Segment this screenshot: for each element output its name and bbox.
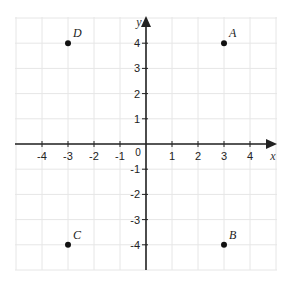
y-axis-label: y: [135, 15, 142, 29]
svg-text:-2: -2: [89, 150, 99, 162]
plotted-points: ABCD: [65, 26, 237, 248]
svg-text:3: 3: [134, 62, 140, 74]
point-marker: [221, 242, 227, 248]
svg-text:4: 4: [134, 37, 140, 49]
svg-text:-3: -3: [130, 214, 140, 226]
svg-text:2: 2: [134, 88, 140, 100]
svg-text:-1: -1: [115, 150, 125, 162]
coordinate-plane: -4-3-2-11234-4-3-2-11234 ABCD x y 0: [0, 0, 292, 284]
svg-text:1: 1: [169, 150, 175, 162]
point-label: D: [72, 26, 82, 40]
point-marker: [65, 40, 71, 46]
svg-text:-1: -1: [130, 163, 140, 175]
point-label: A: [228, 26, 237, 40]
point-marker: [221, 40, 227, 46]
point-label: B: [229, 228, 237, 242]
svg-text:-4: -4: [37, 150, 47, 162]
svg-text:2: 2: [195, 150, 201, 162]
svg-text:3: 3: [221, 150, 227, 162]
svg-text:-4: -4: [130, 239, 140, 251]
origin-label: 0: [135, 147, 141, 158]
svg-text:4: 4: [247, 150, 253, 162]
svg-text:-3: -3: [63, 150, 73, 162]
x-axis-label: x: [269, 149, 276, 163]
axes: [15, 16, 277, 270]
point-label: C: [73, 228, 82, 242]
svg-text:-2: -2: [130, 188, 140, 200]
point-marker: [65, 242, 71, 248]
svg-text:1: 1: [134, 113, 140, 125]
